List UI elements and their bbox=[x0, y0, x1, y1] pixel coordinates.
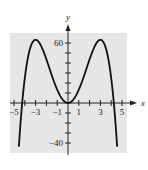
x-tick-label: −3 bbox=[31, 107, 41, 117]
x-axis-label: x bbox=[140, 98, 145, 108]
x-axis-arrow-icon bbox=[130, 101, 137, 106]
y-tick-label: −40 bbox=[49, 138, 64, 148]
y-tick-label: 60 bbox=[54, 38, 64, 48]
x-tick-label: 3 bbox=[98, 107, 103, 117]
x-tick-label: 1 bbox=[77, 107, 82, 117]
x-tick-label: −1 bbox=[52, 107, 62, 117]
x-tick-label: 5 bbox=[120, 107, 125, 117]
y-axis-arrow-icon bbox=[66, 24, 71, 31]
x-tick-label: −5 bbox=[9, 107, 19, 117]
y-axis-label: y bbox=[65, 12, 70, 22]
chart: xy−5−3−113560−40 bbox=[0, 0, 148, 170]
